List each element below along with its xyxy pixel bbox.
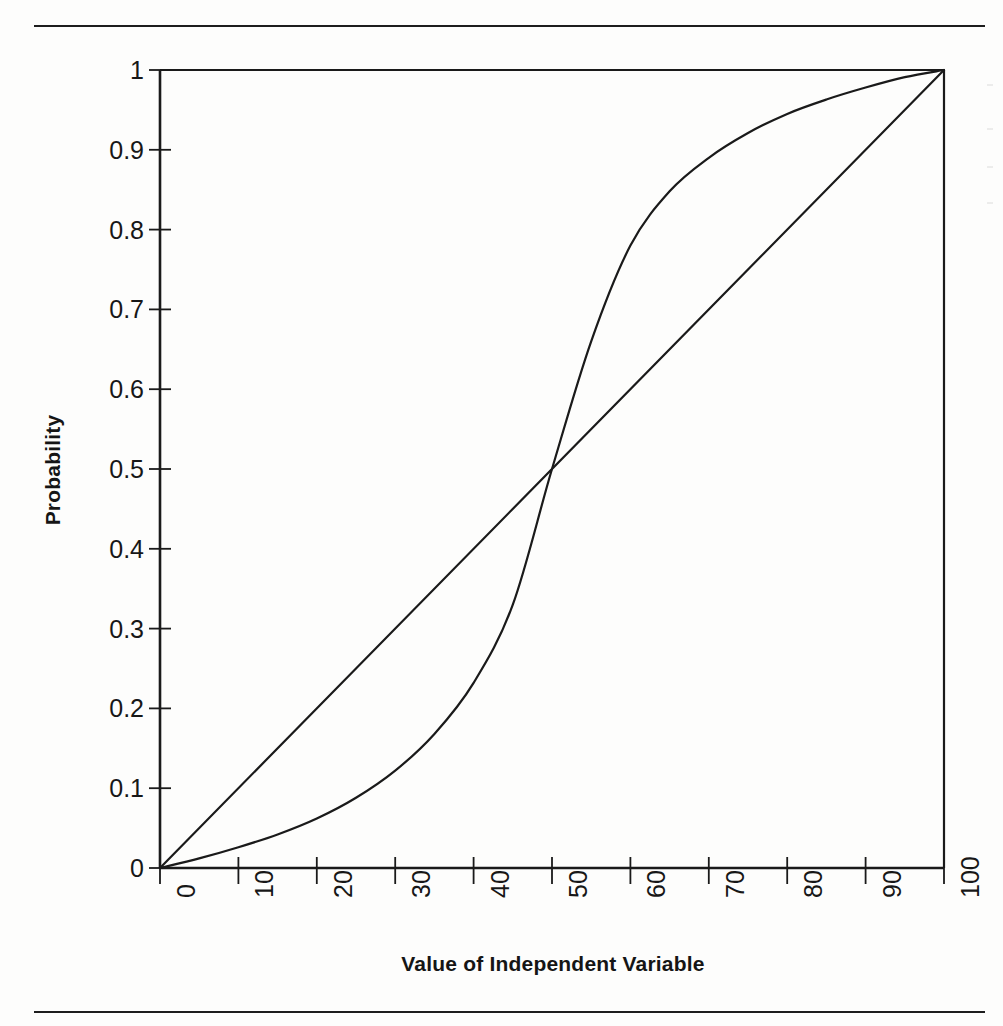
chart-figure: Probability Value of Independent Variabl… <box>0 0 1003 1026</box>
x-tick-label-group: 0102030405060708090100 <box>0 0 1003 1026</box>
x-tick-label-10: 100 <box>956 856 985 898</box>
x-tick-label-6: 60 <box>642 870 671 898</box>
x-tick-label-7: 70 <box>721 870 750 898</box>
document-page: Probability Value of Independent Variabl… <box>0 0 1003 1026</box>
x-tick-label-2: 20 <box>329 870 358 898</box>
x-tick-label-1: 10 <box>250 870 279 898</box>
x-tick-label-9: 90 <box>878 870 907 898</box>
x-tick-label-8: 80 <box>799 870 828 898</box>
x-tick-label-4: 40 <box>486 870 515 898</box>
x-tick-label-0: 0 <box>172 884 201 898</box>
x-tick-label-5: 50 <box>564 870 593 898</box>
x-tick-label-3: 30 <box>407 870 436 898</box>
